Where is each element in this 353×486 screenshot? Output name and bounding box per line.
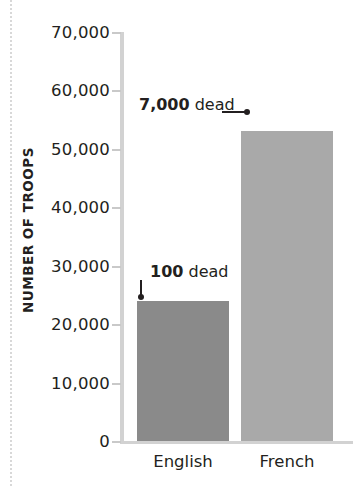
y-tick-label-40000: 40,000	[24, 198, 110, 217]
x-tick-label-english: English	[137, 452, 229, 471]
chart-figure: 70,000 60,000 50,000 40,000 30,000 20,00…	[0, 0, 353, 486]
annotation-english-word: dead	[189, 262, 229, 281]
annotation-english-deaths: 100 dead	[150, 262, 228, 281]
annotation-french-arrow-icon	[222, 108, 252, 115]
annotation-french-value: 7,000	[139, 95, 190, 114]
x-axis-line	[120, 441, 353, 444]
annotation-english-value: 100	[150, 262, 183, 281]
annotation-french-deaths: 7,000 dead	[139, 95, 235, 114]
bar-french[interactable]	[241, 131, 333, 441]
y-axis-title: NUMBER OF TROOPS	[20, 140, 36, 320]
y-tick-mark-0	[112, 441, 121, 443]
annotation-english-arrow-icon	[137, 280, 144, 302]
bars-layer	[120, 32, 353, 441]
y-tick-label-30000: 30,000	[24, 257, 110, 276]
bar-english[interactable]	[137, 301, 229, 441]
left-dotted-rule	[10, 0, 12, 486]
y-tick-label-10000: 10,000	[24, 374, 110, 393]
y-tick-label-0: 0	[24, 432, 110, 451]
x-tick-label-french: French	[241, 452, 333, 471]
y-tick-label-20000: 20,000	[24, 315, 110, 334]
y-tick-label-60000: 60,000	[24, 81, 110, 100]
y-tick-label-70000: 70,000	[24, 23, 110, 42]
y-tick-label-50000: 50,000	[24, 140, 110, 159]
